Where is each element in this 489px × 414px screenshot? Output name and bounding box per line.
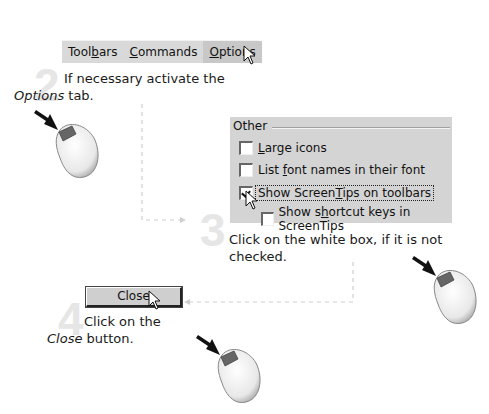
mouse-left-click-icon — [196, 333, 266, 405]
options-other-group: Other Large icons List font names in the… — [230, 117, 452, 223]
tab-toolbars[interactable]: Toolbars — [62, 41, 123, 63]
checkbox-label: Show shortcut keys in ScreenTips — [279, 205, 453, 233]
text: Click on the — [84, 314, 161, 329]
tab-label: ars — [99, 45, 118, 59]
checkbox[interactable] — [239, 163, 253, 177]
close-button-label: Close — [117, 289, 150, 303]
tab-label: ommands — [138, 45, 198, 59]
checkbox[interactable] — [239, 141, 253, 155]
checkbox-label: List font names in their font — [258, 163, 425, 177]
checkbox-label: Show ScreenTips on toolbars — [255, 185, 434, 201]
arrow-cursor-icon — [148, 290, 162, 310]
step-4-instruction: Click on the Close button. — [47, 313, 197, 347]
text: If necessary activate the — [64, 71, 225, 86]
close-button[interactable]: Close — [86, 287, 182, 307]
text-emphasis: Close — [47, 331, 82, 346]
tab-commands[interactable]: Commands — [123, 41, 203, 63]
arrow-cursor-icon — [245, 190, 259, 210]
text: button. — [82, 331, 133, 346]
tab-label-accel: b — [91, 45, 99, 59]
tab-label-accel: O — [209, 45, 218, 59]
mouse-left-click-icon — [412, 254, 482, 326]
text: tab. — [64, 88, 94, 103]
checkbox-label: Large icons — [258, 141, 327, 155]
group-title: Other — [233, 119, 267, 133]
step-number-3: 3 — [200, 207, 226, 253]
step-2-instruction: If necessary activate the Options tab. — [14, 70, 254, 104]
checkbox-list-font-names[interactable]: List font names in their font — [239, 163, 425, 177]
checkbox-show-shortcut-keys[interactable]: Show shortcut keys in ScreenTips — [261, 205, 452, 233]
tab-label-accel: C — [129, 45, 137, 59]
tab-strip: Toolbars Commands Options — [62, 40, 259, 63]
text-emphasis: Options — [14, 88, 64, 103]
checkbox-large-icons[interactable]: Large icons — [239, 141, 327, 155]
mouse-left-click-icon — [34, 108, 104, 180]
arrow-cursor-icon — [243, 45, 257, 65]
tab-label: Tool — [68, 45, 91, 59]
checkbox-show-screentips[interactable]: Show ScreenTips on toolbars — [239, 185, 434, 201]
group-divider — [272, 127, 450, 129]
checkbox[interactable] — [261, 212, 274, 226]
